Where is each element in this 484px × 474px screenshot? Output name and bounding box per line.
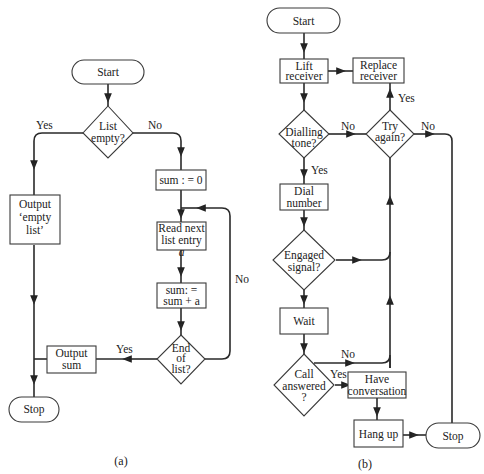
- caption-a: (a): [114, 454, 127, 468]
- process-read-next: Read next list entry a: [157, 222, 206, 258]
- process-sum-add: sum: = sum + a: [157, 283, 206, 308]
- svg-text:sum : = 0: sum : = 0: [159, 174, 202, 186]
- svg-text:list’: list’: [26, 224, 44, 236]
- svg-text:sum + a: sum + a: [163, 295, 200, 307]
- svg-text:tone?: tone?: [292, 137, 317, 149]
- svg-text:Stop: Stop: [23, 403, 44, 416]
- process-sum-init: sum : = 0: [156, 170, 206, 190]
- edge-label-no: No: [341, 348, 355, 360]
- edge-label-yes: Yes: [311, 164, 328, 176]
- edge-label-yes: Yes: [116, 343, 133, 355]
- svg-text:Stop: Stop: [442, 430, 463, 443]
- process-replace-receiver: Replace receiver: [353, 58, 404, 83]
- flowchart-figure: Start List empty? Yes No Output ‘empty l…: [0, 0, 484, 474]
- svg-text:Start: Start: [97, 66, 120, 78]
- stop-terminal-b: Stop: [426, 423, 480, 448]
- start-terminal-b: Start: [267, 8, 340, 33]
- svg-text:Start: Start: [293, 15, 316, 27]
- svg-text:Output: Output: [19, 198, 52, 211]
- decision-end-of-list: End of list?: [157, 335, 205, 384]
- svg-text:receiver: receiver: [360, 70, 397, 82]
- svg-text:‘empty: ‘empty: [19, 211, 52, 224]
- process-have-conversation: Have conversation: [348, 372, 407, 398]
- edge-label-no: No: [341, 120, 355, 132]
- svg-text:receiver: receiver: [285, 70, 322, 82]
- edge-label-no: No: [235, 273, 249, 285]
- svg-text:Dial: Dial: [294, 185, 314, 197]
- process-hang-up: Hang up: [354, 420, 403, 447]
- svg-text:signal?: signal?: [288, 261, 321, 274]
- process-output-sum: Output sum: [47, 346, 96, 373]
- svg-text:sum: sum: [62, 359, 81, 371]
- decision-engaged-signal: Engaged signal?: [273, 230, 335, 290]
- svg-text:number: number: [286, 197, 321, 209]
- process-wait: Wait: [280, 308, 328, 334]
- edge-label-no: No: [148, 119, 162, 131]
- svg-text:a: a: [179, 246, 185, 258]
- svg-text:empty?: empty?: [91, 132, 125, 145]
- flowchart-b: Start Lift receiver Replace receiver Dia…: [267, 8, 480, 471]
- flowchart-a: Start List empty? Yes No Output ‘empty l…: [9, 60, 249, 468]
- edge-label-yes: Yes: [330, 368, 347, 380]
- process-lift-receiver: Lift receiver: [280, 59, 328, 83]
- stop-terminal-a: Stop: [9, 397, 59, 422]
- svg-text:?: ?: [301, 391, 306, 403]
- process-output-empty-list: Output ‘empty list’: [10, 195, 60, 244]
- caption-b: (b): [358, 457, 372, 471]
- edge-label-yes: Yes: [398, 92, 415, 104]
- edge-label-yes: Yes: [36, 119, 53, 131]
- svg-text:Wait: Wait: [293, 315, 315, 327]
- process-dial-number: Dial number: [280, 184, 328, 210]
- svg-text:List: List: [99, 120, 118, 132]
- svg-text:Call: Call: [294, 368, 313, 380]
- svg-text:Hang up: Hang up: [359, 428, 399, 441]
- svg-text:list?: list?: [171, 363, 190, 375]
- decision-try-again: Try again?: [366, 110, 414, 158]
- decision-dialling-tone: Dialling tone?: [279, 110, 329, 158]
- svg-text:Have: Have: [365, 373, 389, 385]
- svg-text:again?: again?: [375, 131, 405, 144]
- start-terminal-a: Start: [72, 60, 144, 84]
- svg-text:Read next: Read next: [158, 222, 205, 234]
- decision-list-empty: List empty?: [83, 106, 133, 158]
- edge-label-no: No: [421, 120, 435, 132]
- svg-text:conversation: conversation: [348, 385, 407, 397]
